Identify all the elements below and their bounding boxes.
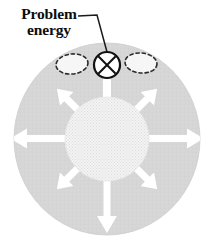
problem-energy-label-line-2: energy: [10, 21, 88, 38]
crossed-circle-icon: [94, 52, 120, 78]
problem-energy-label: Problem energy: [10, 5, 88, 39]
figure-root: Problem energy: [0, 0, 216, 248]
core-circle: [65, 97, 149, 181]
problem-energy-label-line-1: Problem: [10, 5, 88, 22]
